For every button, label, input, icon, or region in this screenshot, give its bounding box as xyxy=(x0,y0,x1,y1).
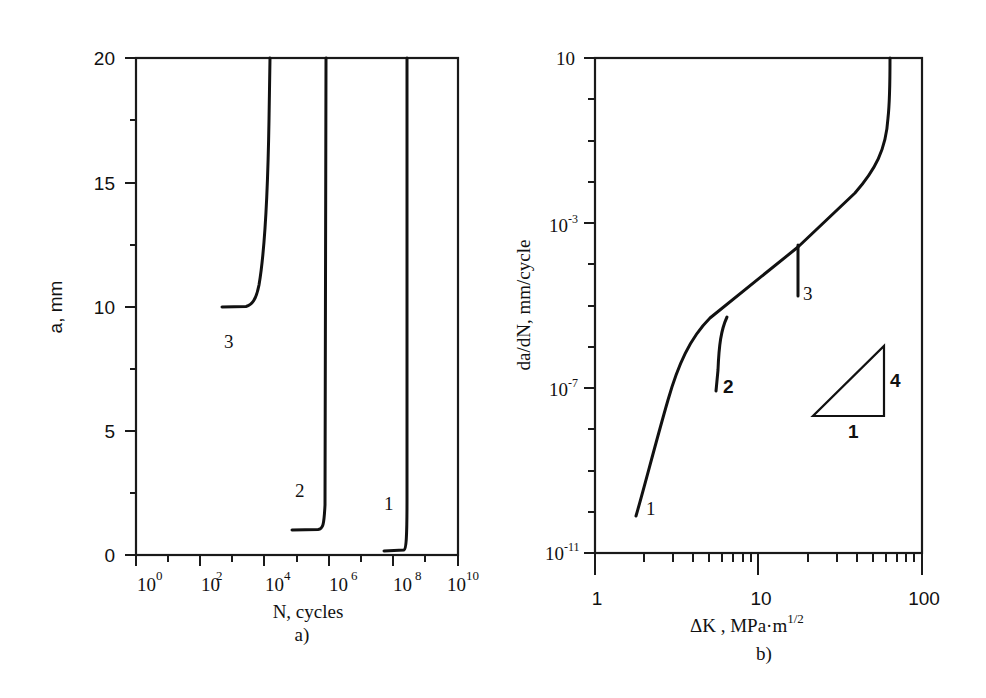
y-ticks-b xyxy=(584,58,595,553)
figure: 20 15 10 5 0 100 102 104 106 108 1010 xyxy=(0,0,986,698)
panel-a: 20 15 10 5 0 100 102 104 106 108 1010 xyxy=(45,48,479,646)
x-axis-label-b: ΔK , MPa·m1/2 xyxy=(690,611,804,636)
curve-labels-a: 3 2 1 xyxy=(224,331,394,514)
y-axis-label-a: a, mm xyxy=(45,281,66,334)
svg-text:10: 10 xyxy=(556,48,575,69)
y-tick-0: 0 xyxy=(104,545,115,566)
svg-text:106: 106 xyxy=(329,568,358,595)
x-axis-label-a: N, cycles xyxy=(273,601,344,622)
curve-label-3-b: 3 xyxy=(803,283,813,304)
svg-text:100: 100 xyxy=(137,568,163,595)
slope-run-label: 1 xyxy=(848,421,859,442)
slope-triangle xyxy=(813,346,884,416)
curve-label-2: 2 xyxy=(295,480,305,501)
curve-1-b xyxy=(636,58,890,516)
curve-label-2-b: 2 xyxy=(723,376,734,397)
plot-frame-b xyxy=(595,58,922,553)
y-ticks-a xyxy=(125,58,136,555)
svg-text:102: 102 xyxy=(201,568,223,595)
svg-text:108: 108 xyxy=(393,568,422,595)
curve-1-a xyxy=(384,58,407,551)
svg-text:10-11: 10-11 xyxy=(545,540,580,564)
svg-text:10-7: 10-7 xyxy=(549,376,578,400)
y-axis-label-b: da/dN, mm/cycle xyxy=(513,240,534,371)
y-tick-15: 15 xyxy=(94,173,115,194)
svg-text:100: 100 xyxy=(908,588,940,609)
curve-3-a xyxy=(222,58,270,307)
y-tick-20: 20 xyxy=(94,48,115,69)
x-tick-labels-b: 1 10 100 xyxy=(592,588,940,609)
panel-label-a: a) xyxy=(295,624,310,646)
panel-b: 10 10-3 10-7 10-11 xyxy=(513,48,940,665)
x-ticks-a xyxy=(136,555,458,566)
curve-labels-b: 1 3 xyxy=(646,283,813,519)
slope-rise-label: 4 xyxy=(890,370,901,391)
x-ticks-b xyxy=(595,553,922,575)
curve-label-3: 3 xyxy=(224,331,234,352)
svg-text:104: 104 xyxy=(265,568,291,595)
svg-text:1: 1 xyxy=(592,588,603,609)
curve-label-1: 1 xyxy=(384,493,394,514)
panel-label-b: b) xyxy=(756,643,772,665)
svg-text:10-3: 10-3 xyxy=(549,212,578,236)
curve-label-1-b: 1 xyxy=(646,498,656,519)
svg-text:1010: 1010 xyxy=(447,568,479,595)
y-tick-10: 10 xyxy=(94,297,115,318)
y-tick-labels-a: 20 15 10 5 0 xyxy=(94,48,115,566)
x-tick-labels-a: 100 102 104 106 108 1010 xyxy=(137,568,479,595)
curve-2-a xyxy=(292,58,326,530)
svg-text:10: 10 xyxy=(750,588,771,609)
y-tick-labels-b: 10 10-3 10-7 10-11 xyxy=(545,48,580,564)
y-tick-5: 5 xyxy=(104,421,115,442)
